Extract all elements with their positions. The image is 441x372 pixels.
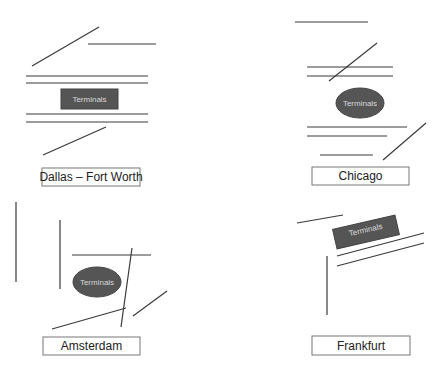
runway bbox=[121, 248, 132, 327]
runway bbox=[329, 43, 377, 81]
city-label: Amsterdam bbox=[61, 339, 122, 353]
runway bbox=[297, 215, 343, 223]
runway bbox=[383, 123, 426, 160]
runway bbox=[43, 127, 106, 155]
city-label: Dallas – Fort Worth bbox=[39, 170, 142, 184]
runway bbox=[52, 308, 126, 329]
terminal-label: Terminals bbox=[343, 99, 377, 108]
runway bbox=[32, 27, 99, 66]
airport-layouts-diagram: Terminals Dallas – Fort Worth Terminals … bbox=[0, 0, 441, 372]
terminal-label: Terminals bbox=[72, 95, 106, 104]
panel-dallas-fort-worth: Terminals Dallas – Fort Worth bbox=[26, 27, 156, 186]
panel-chicago: Terminals Chicago bbox=[295, 22, 426, 185]
terminal-label: Terminals bbox=[80, 278, 114, 287]
terminal-group: Terminals bbox=[333, 215, 400, 249]
city-label: Frankfurt bbox=[337, 339, 386, 353]
panel-amsterdam: Terminals Amsterdam bbox=[16, 202, 167, 355]
runway bbox=[133, 291, 167, 316]
city-label: Chicago bbox=[338, 169, 382, 183]
panel-frankfurt: Terminals Frankfurt bbox=[297, 215, 424, 355]
